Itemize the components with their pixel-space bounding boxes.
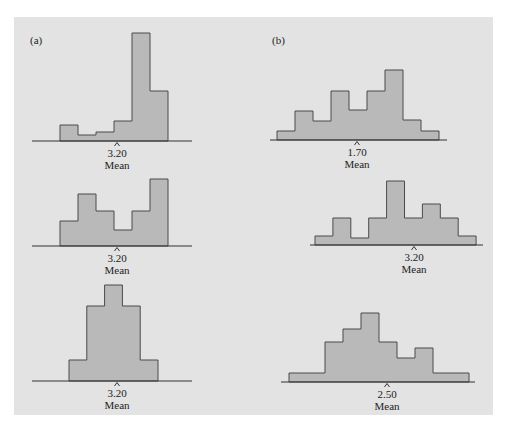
mean-label: Mean	[104, 159, 130, 171]
mean-value: 3.20	[107, 252, 127, 264]
mean-caret-icon	[115, 248, 120, 252]
histogram-a-bottom: 3.20Mean	[32, 285, 192, 411]
mean-value: 3.20	[107, 147, 127, 159]
mean-value: 3.20	[404, 251, 424, 263]
histogram-b-bottom: 2.50Mean	[281, 313, 475, 412]
histogram-bars	[60, 33, 168, 141]
histogram-bars	[60, 179, 168, 246]
panel-label-a: (a)	[30, 34, 43, 47]
histogram-bars	[315, 181, 476, 245]
mean-value: 1.70	[347, 146, 367, 158]
mean-label: Mean	[104, 264, 130, 276]
histogram-bars	[289, 313, 469, 382]
histogram-b-middle: 3.20Mean	[310, 181, 483, 275]
mean-caret-icon	[115, 383, 120, 387]
histogram-a-top: 3.20Mean	[32, 33, 192, 171]
histogram-bars	[69, 285, 158, 381]
mean-label: Mean	[344, 158, 370, 170]
mean-label: Mean	[374, 400, 400, 412]
mean-label: Mean	[104, 399, 130, 411]
mean-label: Mean	[401, 263, 427, 275]
histogram-bars	[277, 70, 439, 140]
mean-value: 3.20	[107, 387, 127, 399]
mean-value: 2.50	[377, 388, 397, 400]
mean-caret-icon	[412, 247, 417, 251]
histogram-a-middle: 3.20Mean	[32, 179, 192, 276]
histogram-b-top: 1.70Mean	[270, 70, 447, 170]
panel-label-b: (b)	[272, 34, 285, 47]
mean-caret-icon	[115, 143, 120, 147]
mean-caret-icon	[355, 142, 360, 146]
mean-caret-icon	[385, 384, 390, 388]
histogram-figure: (a) (b) 3.20Mean3.20Mean3.20Mean1.70Mean…	[0, 0, 505, 427]
